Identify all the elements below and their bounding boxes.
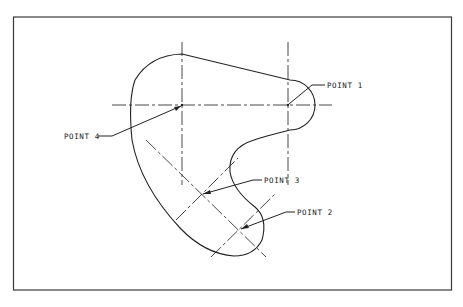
arrowhead-point3 <box>203 190 211 194</box>
leader-point1 <box>289 85 325 104</box>
crossline-point2 <box>211 194 275 257</box>
label-point1: POINT 1 <box>327 81 363 90</box>
arrowhead-point4 <box>174 106 181 111</box>
leader-point3 <box>203 180 262 194</box>
centerline-diagonal <box>146 140 266 257</box>
point1-marker <box>287 104 289 106</box>
cam-profile-outline <box>131 54 315 256</box>
label-point3: POINT 3 <box>264 176 300 185</box>
leader-point4 <box>98 106 181 136</box>
drawing-border <box>14 17 452 290</box>
label-point2: POINT 2 <box>297 208 333 217</box>
label-point4: POINT 4 <box>64 132 100 141</box>
technical-drawing: POINT 1 POINT 4 POINT 3 POINT 2 <box>0 0 463 307</box>
crossline-point3 <box>176 158 238 220</box>
leader-point2 <box>241 212 295 229</box>
arrowhead-point2 <box>241 224 249 229</box>
point4-marker <box>181 104 183 106</box>
